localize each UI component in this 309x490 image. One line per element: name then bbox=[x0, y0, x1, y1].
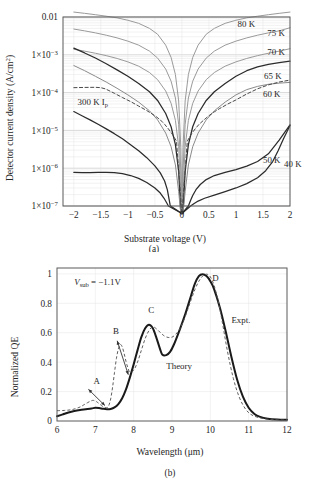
panel-b-gridlines bbox=[57, 268, 287, 421]
peak-label-c: C bbox=[148, 305, 154, 315]
y-tick-label: 1×10−5 bbox=[32, 125, 59, 136]
x-tick-label: 10 bbox=[206, 425, 216, 435]
x-tick-label: −1.5 bbox=[92, 210, 109, 220]
legend-theory: Theory bbox=[166, 361, 192, 371]
y-tick-label: 0 bbox=[47, 416, 52, 426]
panel-a-svg: −2−1.5−1−0.500.511.520.011×10−31×10−41×1… bbox=[0, 0, 309, 252]
y-tick-label: 1×10−3 bbox=[32, 49, 59, 60]
x-tick-label: 11 bbox=[244, 425, 253, 435]
figure-container: −2−1.5−1−0.500.511.520.011×10−31×10−41×1… bbox=[0, 0, 309, 490]
x-tick-label: −0.5 bbox=[146, 210, 163, 220]
y-tick-label: 0.4 bbox=[40, 358, 52, 368]
panel-b-svg: 678910111200.20.40.60.81 Vsub = −1.1VABC… bbox=[0, 252, 309, 490]
x-tick-label: −1 bbox=[123, 210, 133, 220]
panel-a-current-voltage: −2−1.5−1−0.500.511.520.011×10−31×10−41×1… bbox=[0, 0, 309, 252]
curve-label-60k: 60 K bbox=[263, 89, 281, 99]
y-tick-label: 1×10−6 bbox=[32, 162, 59, 173]
panel-b-annotations: Vsub = −1.1VABCDExpt.Theory bbox=[74, 273, 250, 406]
x-tick-label: 9 bbox=[170, 425, 175, 435]
curve-label-75k: 75 K bbox=[267, 28, 285, 38]
x-tick-label: 8 bbox=[131, 425, 136, 435]
y-tick-label: 0.8 bbox=[40, 299, 52, 309]
curve-label-70k: 70 K bbox=[267, 47, 285, 57]
curve-label-300k-ip: 300 K Ip bbox=[78, 97, 109, 108]
panel-a-y-axis-title: Detector current density (A/cm2) bbox=[4, 55, 16, 181]
bias-annotation: Vsub = −1.1V bbox=[74, 277, 121, 288]
arrow-head bbox=[117, 341, 120, 345]
panel-b-y-axis-title: Normalized QE bbox=[9, 337, 20, 398]
peak-label-b: B bbox=[113, 326, 119, 336]
y-tick-label: 0.01 bbox=[42, 12, 59, 22]
panel-a-label: (a) bbox=[149, 244, 159, 252]
peak-b-arrow bbox=[117, 341, 129, 375]
curve-label-50k: 50 K bbox=[263, 155, 281, 165]
arrow-head bbox=[125, 370, 128, 374]
curve-label-40k: 40 K bbox=[284, 159, 302, 169]
y-tick-label: 1×10−7 bbox=[32, 200, 59, 211]
x-tick-label: 6 bbox=[55, 425, 60, 435]
panel-b-label: (b) bbox=[165, 468, 176, 479]
x-tick-label: 1 bbox=[234, 210, 239, 220]
legend-expt: Expt. bbox=[231, 315, 250, 325]
peak-label-d: D bbox=[212, 273, 219, 283]
curve-label-65k: 65 K bbox=[264, 71, 282, 81]
x-tick-label: 0 bbox=[180, 210, 185, 220]
y-tick-label: 0.6 bbox=[40, 328, 52, 338]
panel-b-normalized-qe: 678910111200.20.40.60.81 Vsub = −1.1VABC… bbox=[0, 252, 309, 490]
x-tick-label: 1.5 bbox=[257, 210, 269, 220]
x-tick-label: 2 bbox=[288, 210, 293, 220]
y-tick-label: 1×10−4 bbox=[32, 87, 59, 98]
curve-label-80k: 80 K bbox=[238, 19, 256, 29]
x-tick-label: 12 bbox=[282, 425, 292, 435]
x-tick-label: 7 bbox=[93, 425, 98, 435]
y-tick-label: 1 bbox=[47, 269, 52, 279]
x-tick-label: −2 bbox=[69, 210, 79, 220]
panel-a-x-axis-title: Substrate voltage (V) bbox=[124, 233, 206, 245]
panel-b-x-axis-title: Wavelength (μm) bbox=[137, 446, 204, 458]
peak-label-a: A bbox=[93, 376, 100, 386]
x-tick-label: 0.5 bbox=[203, 210, 215, 220]
y-tick-label: 0.2 bbox=[40, 387, 52, 397]
